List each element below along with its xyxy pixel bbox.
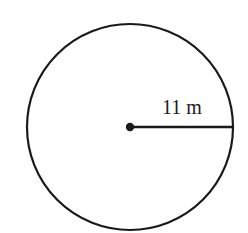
center-point bbox=[126, 123, 134, 131]
radius-label: 11 m bbox=[162, 96, 202, 118]
circle-diagram: 11 m bbox=[0, 0, 248, 233]
